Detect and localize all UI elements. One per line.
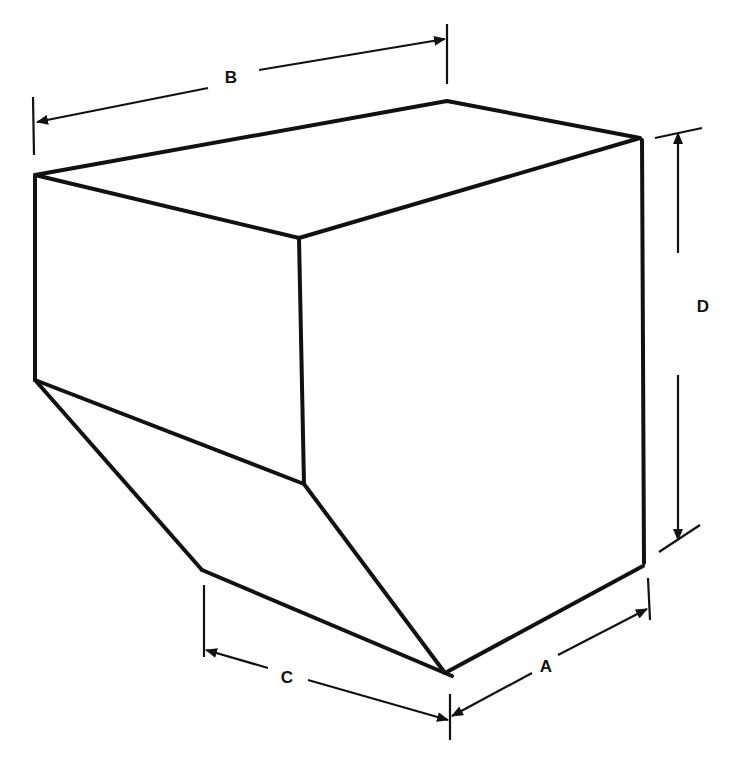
dimension-b-label: B <box>225 69 237 86</box>
dimension-c-label: C <box>281 669 293 686</box>
front-center-edge <box>299 238 304 484</box>
dimension-a-label: A <box>540 658 552 675</box>
dimension-b-arrow-right <box>259 39 445 70</box>
dimension-a-extension-right <box>648 578 650 620</box>
dimension-d-extension-bottom <box>659 525 700 552</box>
top-face <box>35 101 640 238</box>
box-outline <box>35 101 644 676</box>
dimension-c-arrow-left <box>206 650 268 668</box>
dimension-d-label: D <box>697 298 709 315</box>
dimension-d <box>655 128 702 552</box>
dimension-a-arrow-left <box>452 673 532 716</box>
dimension-b-extension-left <box>33 97 34 155</box>
dimension-c-arrow-right <box>308 680 448 720</box>
left-face-bottom-edge <box>35 380 304 484</box>
dimension-b-arrow-left <box>37 88 208 122</box>
dimension-b <box>33 24 447 155</box>
dimension-c <box>204 585 448 720</box>
hopper-left-slope <box>35 380 202 570</box>
box-hopper-drawing <box>0 0 730 763</box>
dimension-a-arrow-right <box>558 609 647 655</box>
diagram-canvas: B D A C <box>0 0 730 763</box>
right-edge <box>642 140 644 563</box>
